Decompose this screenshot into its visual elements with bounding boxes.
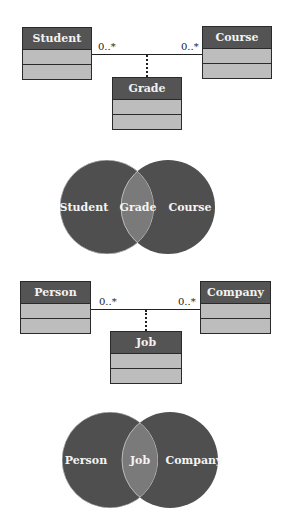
venn-label-intersection: Job [129,454,151,467]
venn-diagram-2: Person Job Company [62,412,223,508]
venn-diagram-1: Student Grade Course [60,160,215,254]
venn-label-right: Course [168,201,211,214]
venn-label-left: Student [60,201,110,214]
venn-label-left: Person [65,454,107,467]
venn-label-right: Company [166,454,224,467]
venn-label-intersection: Grade [119,201,156,214]
venn-diagrams: Student Grade Course Person Job Company [0,0,290,528]
